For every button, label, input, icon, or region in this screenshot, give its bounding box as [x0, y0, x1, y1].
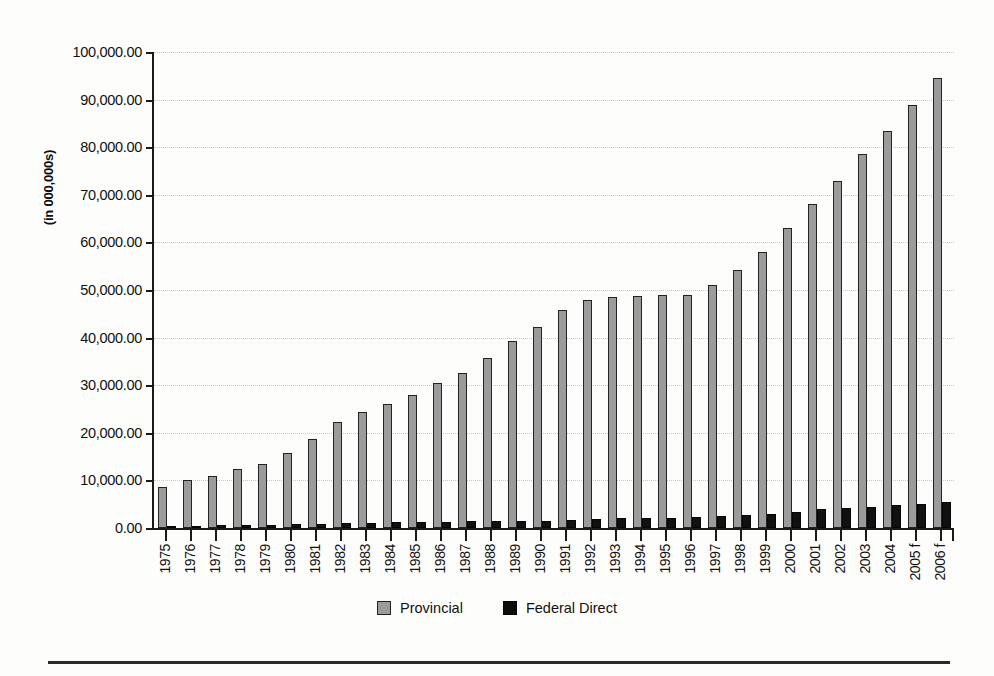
x-axis-tick — [602, 530, 627, 542]
x-axis-tick — [502, 530, 527, 542]
legend-label: Provincial — [400, 600, 463, 616]
bar-provincial[interactable] — [783, 228, 792, 528]
bar-federal[interactable] — [292, 524, 301, 528]
x-axis-label: 1977 — [207, 544, 223, 574]
bar-federal[interactable] — [492, 521, 501, 528]
bar-federal[interactable] — [842, 508, 851, 528]
bar-provincial[interactable] — [583, 300, 592, 528]
bar-provincial[interactable] — [283, 453, 292, 528]
bar-federal[interactable] — [717, 516, 726, 528]
bar-provincial[interactable] — [308, 439, 317, 528]
legend-item[interactable]: Federal Direct — [503, 600, 617, 616]
bar-provincial[interactable] — [358, 412, 367, 528]
bar-provincial[interactable] — [858, 154, 867, 528]
x-axis-label: 2003 — [857, 544, 873, 574]
bar-provincial[interactable] — [658, 295, 667, 528]
x-axis-ticks — [152, 530, 952, 542]
bar-federal[interactable] — [542, 521, 551, 528]
x-axis-tick-mark — [265, 530, 267, 541]
x-axis-tick-mark — [440, 530, 442, 541]
bar-provincial[interactable] — [258, 464, 267, 528]
bar-federal[interactable] — [442, 522, 451, 528]
bar-federal[interactable] — [692, 517, 701, 528]
bar-provincial[interactable] — [808, 204, 817, 528]
bar-federal[interactable] — [917, 504, 926, 528]
bar-provincial[interactable] — [233, 469, 242, 528]
bar-federal[interactable] — [792, 512, 801, 528]
bar-provincial[interactable] — [333, 422, 342, 528]
y-axis-tick — [146, 147, 154, 149]
y-axis-tick — [146, 100, 154, 102]
x-axis-label-cell: 1981 — [302, 544, 327, 606]
y-axis-tick-label: 100,000.00 — [72, 44, 142, 60]
x-axis-label: 1984 — [382, 544, 398, 574]
x-axis-label: 1987 — [457, 544, 473, 574]
bar-federal[interactable] — [167, 526, 176, 528]
bar-provincial[interactable] — [908, 105, 917, 528]
bar-federal[interactable] — [867, 507, 876, 528]
bar-federal[interactable] — [317, 524, 326, 528]
bar-federal[interactable] — [242, 525, 251, 528]
bar-provincial[interactable] — [758, 252, 767, 528]
bar-federal[interactable] — [192, 526, 201, 528]
x-axis-tick — [202, 530, 227, 542]
bar-federal[interactable] — [667, 518, 676, 528]
bar-federal[interactable] — [642, 518, 651, 528]
x-axis-label-cell: 1976 — [177, 544, 202, 606]
bar-provincial[interactable] — [883, 131, 892, 528]
bar-federal[interactable] — [592, 519, 601, 528]
bar-federal[interactable] — [467, 521, 476, 528]
x-axis-label-cell: 1984 — [377, 544, 402, 606]
bar-provincial[interactable] — [483, 358, 492, 528]
bar-provincial[interactable] — [708, 285, 717, 528]
bar-provincial[interactable] — [633, 296, 642, 528]
x-axis-tick-mark — [515, 530, 517, 541]
bar-federal[interactable] — [892, 505, 901, 528]
x-axis-label-cell: 1987 — [452, 544, 477, 606]
bar-provincial[interactable] — [533, 327, 542, 528]
x-axis-tick-mark — [815, 530, 817, 541]
bar-provincial[interactable] — [208, 476, 217, 528]
bottom-divider — [48, 661, 950, 664]
x-axis-tick-mark — [390, 530, 392, 541]
x-axis-label: 1990 — [532, 544, 548, 574]
bar-federal[interactable] — [767, 514, 776, 528]
bar-federal[interactable] — [817, 509, 826, 528]
x-axis-label: 1978 — [232, 544, 248, 574]
x-axis-labels: 1975197619771978197919801981198219831984… — [152, 544, 952, 606]
bar-federal[interactable] — [517, 521, 526, 528]
bar-federal[interactable] — [617, 518, 626, 528]
bar-provincial[interactable] — [608, 297, 617, 528]
bar-provincial[interactable] — [408, 395, 417, 528]
x-axis-tick-mark — [315, 530, 317, 541]
bar-provincial[interactable] — [158, 487, 167, 528]
legend-swatch-icon — [503, 601, 517, 615]
bar-provincial[interactable] — [733, 270, 742, 528]
bar-provincial[interactable] — [508, 341, 517, 528]
bar-federal[interactable] — [392, 522, 401, 528]
bar-provincial[interactable] — [833, 181, 842, 528]
legend-item[interactable]: Provincial — [377, 600, 463, 616]
bar-provincial[interactable] — [433, 383, 442, 528]
bar-provincial[interactable] — [558, 310, 567, 528]
y-axis-title: (in 000,000s) — [41, 88, 56, 288]
bar-provincial[interactable] — [183, 480, 192, 528]
bar-federal[interactable] — [267, 525, 276, 528]
bar-federal[interactable] — [567, 520, 576, 528]
x-axis-tick-mark — [490, 530, 492, 541]
bar-provincial[interactable] — [383, 404, 392, 528]
bar-provincial[interactable] — [933, 78, 942, 528]
x-axis-tick-mark — [190, 530, 192, 541]
bar-provincial[interactable] — [458, 373, 467, 528]
bar-federal[interactable] — [342, 523, 351, 528]
bar-provincial[interactable] — [683, 295, 692, 528]
bar-federal[interactable] — [367, 523, 376, 528]
bar-federal[interactable] — [417, 522, 426, 528]
bar-group — [329, 52, 354, 528]
x-axis-tick — [652, 530, 677, 542]
bar-federal[interactable] — [217, 525, 226, 528]
bar-federal[interactable] — [742, 515, 751, 528]
x-axis-label-cell: 1990 — [527, 544, 552, 606]
bar-group — [554, 52, 579, 528]
bar-federal[interactable] — [942, 502, 951, 528]
